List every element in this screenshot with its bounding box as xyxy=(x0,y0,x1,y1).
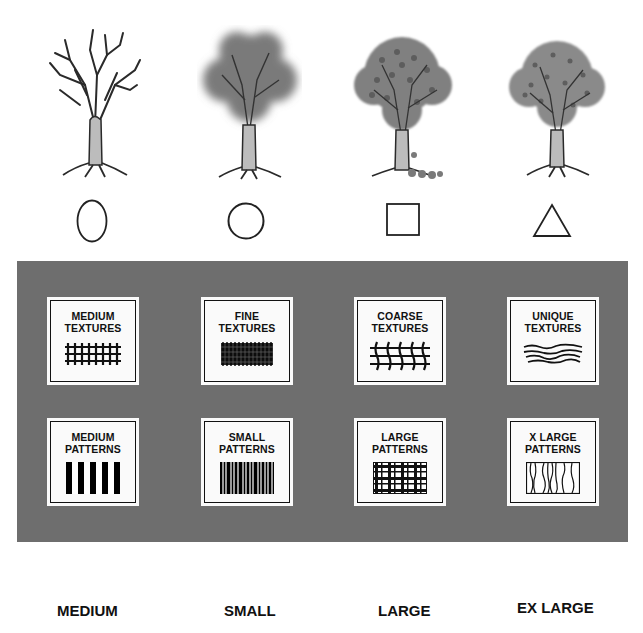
card-title: COARSETEXTURES xyxy=(372,310,429,334)
triangle-icon xyxy=(531,202,573,238)
card-title: SMALLPATTERNS xyxy=(219,431,275,455)
card-title: LARGEPATTERNS xyxy=(372,431,428,455)
circle-icon xyxy=(226,201,266,241)
caption-ex-large-spring-lines: EX LARGE SPRING LINES xyxy=(517,557,594,633)
fine-grid-swatch-icon xyxy=(219,341,275,367)
wide-stripes-swatch-icon xyxy=(66,462,120,494)
card-medium-patterns: MEDIUMPATTERNS xyxy=(47,418,139,506)
card-title: UNIQUETEXTURES xyxy=(525,310,582,334)
card-large-patterns: LARGEPATTERNS xyxy=(354,418,446,506)
spring-tree-illustration xyxy=(505,35,610,180)
medium-grid-swatch-icon xyxy=(64,341,122,367)
card-title: X LARGEPATTERNS xyxy=(525,431,581,455)
wavy-lines-swatch-icon xyxy=(522,341,584,367)
card-x-large-patterns: X LARGEPATTERNS xyxy=(507,418,599,506)
card-unique-textures: UNIQUETEXTURES xyxy=(507,297,599,385)
card-fine-textures: FINETEXTURES xyxy=(201,297,293,385)
woodgrain-swatch-icon xyxy=(526,462,580,494)
caption-small-summer-lines: SMALL SUMMER LINES xyxy=(214,560,281,633)
barcode-stripes-swatch-icon xyxy=(220,462,274,494)
card-title: MEDIUMTEXTURES xyxy=(65,310,122,334)
caption-large-autumn-lines: LARGE AUTUMN LINES xyxy=(371,560,436,633)
winter-tree-illustration xyxy=(45,25,145,180)
card-small-patterns: SMALLPATTERNS xyxy=(201,418,293,506)
summer-tree-illustration xyxy=(197,25,302,180)
square-icon xyxy=(385,202,423,238)
caption-medium-winter-lines: MEDIUM WINTER LINES xyxy=(57,560,118,633)
coarse-grid-swatch-icon xyxy=(369,341,431,371)
oval-icon xyxy=(75,198,109,244)
plaid-swatch-icon xyxy=(373,462,427,494)
autumn-tree-illustration xyxy=(352,30,457,180)
card-coarse-textures: COARSETEXTURES xyxy=(354,297,446,385)
card-title: MEDIUMPATTERNS xyxy=(65,431,121,455)
card-title: FINETEXTURES xyxy=(219,310,276,334)
card-medium-textures: MEDIUMTEXTURES xyxy=(47,297,139,385)
